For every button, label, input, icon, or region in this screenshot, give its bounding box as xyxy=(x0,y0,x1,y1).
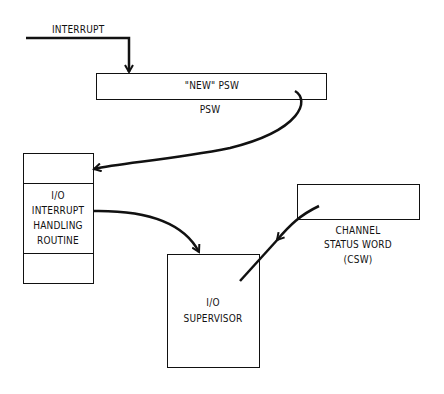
interrupt-label: INTERRUPT xyxy=(52,24,104,36)
psw-caption: PSW xyxy=(195,104,225,116)
csw-caption-line-2: STATUS WORD xyxy=(318,239,398,251)
interrupt-arrow xyxy=(26,38,129,72)
supervisor-line-1: I/O xyxy=(168,297,258,309)
csw-caption-line-1: CHANNEL xyxy=(318,225,398,237)
handler-line-4: ROUTINE xyxy=(24,235,92,247)
supervisor-line-2: SUPERVISOR xyxy=(168,313,258,325)
csw-caption-line-3: (CSW) xyxy=(318,254,398,266)
io-supervisor-box: I/O SUPERVISOR xyxy=(167,254,260,368)
handler-to-supervisor-arrow xyxy=(93,211,199,252)
new-psw-box: "NEW" PSW xyxy=(96,73,327,100)
handler-bottom-divider xyxy=(24,253,93,254)
handler-line-1: I/O xyxy=(24,190,92,202)
handler-line-3: HANDLING xyxy=(24,220,92,232)
csw-box xyxy=(297,184,420,220)
handler-routine-box: I/O INTERRUPT HANDLING ROUTINE xyxy=(23,153,94,284)
handler-line-2: INTERRUPT xyxy=(24,205,92,217)
psw-to-handler-arrow xyxy=(94,91,301,169)
new-psw-label: "NEW" PSW xyxy=(177,80,247,92)
handler-top-divider xyxy=(24,183,93,184)
